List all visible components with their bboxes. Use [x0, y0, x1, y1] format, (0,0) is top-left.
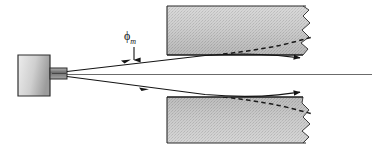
figure-canvas: ϕm — [0, 0, 377, 149]
acceptance-angle-label: ϕm — [124, 30, 136, 45]
emitter-body — [18, 55, 67, 96]
upper-ray-arrowhead-mid — [121, 59, 131, 63]
lower-ray-arrowhead-mid — [139, 88, 149, 92]
upper-cladding-block — [167, 6, 313, 55]
lower-ray-path — [67, 77, 300, 97]
ray-diagram-svg — [0, 0, 377, 149]
upper-ray-path — [67, 54, 300, 72]
acceptance-angle-subscript: m — [130, 37, 136, 46]
lower-cladding-block — [167, 97, 313, 143]
